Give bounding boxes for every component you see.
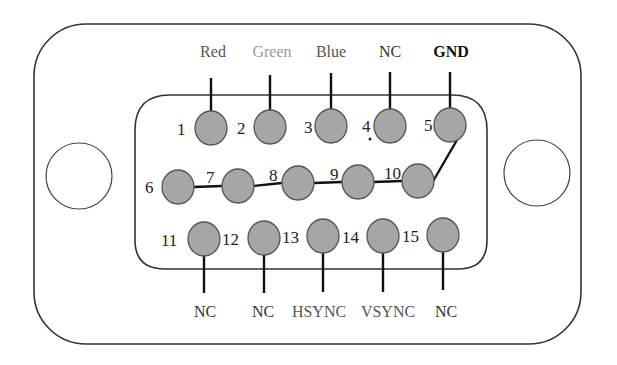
pin-15 bbox=[427, 218, 459, 252]
pin-number-12: 12 bbox=[222, 230, 239, 249]
label-red: Red bbox=[200, 43, 226, 60]
pin-8 bbox=[282, 166, 314, 200]
pin-3 bbox=[315, 109, 347, 143]
pin-number-14: 14 bbox=[342, 228, 360, 247]
pin-12 bbox=[248, 221, 280, 255]
top-signal-labels: Red Green Blue NC GND bbox=[200, 43, 469, 60]
pin-number-3: 3 bbox=[304, 118, 313, 137]
label-blue: Blue bbox=[316, 43, 346, 60]
pin-13 bbox=[307, 219, 339, 253]
label-hsync: HSYNC bbox=[292, 303, 346, 320]
pin-10 bbox=[402, 164, 434, 198]
stray-dot bbox=[369, 138, 372, 141]
pin-number-6: 6 bbox=[145, 178, 154, 197]
left-mounting-hole bbox=[46, 143, 112, 209]
pin-number-10: 10 bbox=[384, 164, 401, 183]
top-wires bbox=[211, 72, 450, 111]
label-green: Green bbox=[252, 43, 291, 60]
vga-connector-diagram: 1 2 3 4 5 6 7 8 9 10 11 12 13 14 15 Red … bbox=[0, 0, 617, 365]
pin-9 bbox=[342, 165, 374, 199]
label-nc-4: NC bbox=[379, 43, 401, 60]
pin-number-8: 8 bbox=[269, 166, 278, 185]
pin-11 bbox=[188, 222, 220, 256]
right-mounting-hole bbox=[504, 140, 570, 206]
pin-6 bbox=[162, 170, 194, 204]
pin-number-2: 2 bbox=[237, 119, 246, 138]
pin-number-9: 9 bbox=[330, 165, 339, 184]
pin-14 bbox=[367, 219, 399, 253]
pin-number-11: 11 bbox=[161, 231, 177, 250]
label-gnd: GND bbox=[433, 43, 469, 60]
pin-number-15: 15 bbox=[402, 227, 419, 246]
label-nc-15: NC bbox=[435, 303, 457, 320]
label-nc-12: NC bbox=[252, 303, 274, 320]
bottom-wires bbox=[204, 251, 443, 293]
pin-5 bbox=[434, 108, 466, 142]
label-vsync: VSYNC bbox=[361, 303, 415, 320]
pin-number-1: 1 bbox=[177, 120, 186, 139]
pin-number-5: 5 bbox=[424, 116, 433, 135]
pin-2 bbox=[254, 110, 286, 144]
pin-1 bbox=[195, 111, 227, 145]
bottom-signal-labels: NC NC HSYNC VSYNC NC bbox=[194, 303, 457, 320]
pin-7 bbox=[222, 169, 254, 203]
pin-number-7: 7 bbox=[206, 168, 215, 187]
pin-number-13: 13 bbox=[282, 228, 299, 247]
pin-number-4: 4 bbox=[362, 117, 371, 136]
label-nc-11: NC bbox=[194, 303, 216, 320]
pin-4 bbox=[374, 109, 406, 143]
